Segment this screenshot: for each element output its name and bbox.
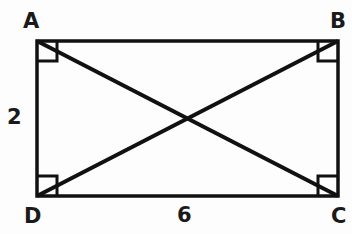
rectangle-diagram-svg — [0, 0, 352, 234]
vertex-label-c: C — [331, 206, 346, 227]
vertex-label-b: B — [330, 11, 346, 32]
vertex-label-d: D — [24, 206, 41, 227]
diagram-canvas: A B C D 2 6 — [0, 0, 352, 234]
vertex-label-a: A — [23, 11, 39, 32]
side-label-height: 2 — [7, 107, 22, 128]
side-label-width: 6 — [177, 205, 192, 226]
